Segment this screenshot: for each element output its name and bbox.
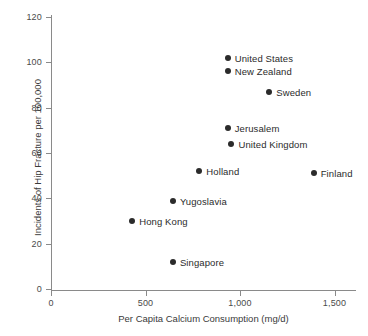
data-point: [129, 218, 135, 224]
y-tick-mark: [46, 244, 52, 245]
data-point-label: New Zealand: [235, 66, 292, 77]
x-tick-label: 500: [138, 298, 154, 308]
data-point-label: Jerusalem: [235, 123, 280, 134]
data-point: [228, 141, 234, 147]
scatter-chart: 020406080100120 05001,0001,500 United St…: [0, 0, 368, 336]
y-tick-mark: [46, 108, 52, 109]
x-axis-line: [51, 290, 356, 291]
y-tick-label: 120: [26, 12, 42, 22]
data-point: [266, 89, 272, 95]
data-point-label: Sweden: [276, 86, 311, 97]
data-point: [225, 125, 231, 131]
x-tick-mark: [240, 290, 241, 296]
data-point-label: Hong Kong: [139, 216, 187, 227]
y-tick-mark: [46, 17, 52, 18]
data-point: [196, 168, 202, 174]
data-point: [311, 170, 317, 176]
data-point-label: United States: [235, 52, 293, 63]
data-point-label: Holland: [206, 166, 239, 177]
x-tick-mark: [146, 290, 147, 296]
x-tick-mark: [335, 290, 336, 296]
y-tick-mark: [46, 153, 52, 154]
x-tick-label: 1,500: [323, 298, 347, 308]
y-tick-mark: [46, 198, 52, 199]
data-point: [170, 198, 176, 204]
x-tick-mark: [51, 290, 52, 296]
data-point: [170, 259, 176, 265]
data-point-label: Singapore: [180, 256, 224, 267]
data-point: [225, 55, 231, 61]
y-tick-label: 0: [37, 284, 42, 294]
data-point-label: Finland: [321, 168, 353, 179]
x-tick-label: 1,000: [228, 298, 252, 308]
y-tick-mark: [46, 62, 52, 63]
data-point: [225, 68, 231, 74]
data-point-label: Yugoslavia: [180, 195, 227, 206]
x-axis-title: Per Capita Calcium Consumption (mg/d): [51, 313, 356, 324]
x-tick-label: 0: [48, 298, 53, 308]
y-axis-title: Incidents of Hip Fracture per 100,000: [32, 33, 43, 283]
data-point-label: United Kingdom: [238, 138, 307, 149]
